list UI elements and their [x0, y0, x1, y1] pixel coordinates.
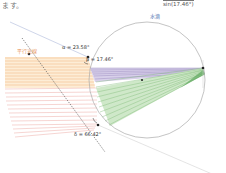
formula-denominator: sin(17.46°): [163, 0, 194, 7]
label-parallel-rays: 平行光線: [17, 47, 37, 54]
formula: sin(17.46°): [163, 0, 194, 7]
refraction-diagram: [0, 0, 226, 173]
point-exit[interactable]: [202, 67, 205, 70]
header-text: ます。: [2, 0, 24, 10]
incident-band: [5, 57, 95, 88]
outgoing-guide-line: [98, 125, 226, 173]
point-lower-exit[interactable]: [97, 124, 100, 127]
label-beta-angle: β = 17.46°: [86, 56, 113, 62]
delta-angle-arc: [93, 118, 97, 123]
label-delta-angle: δ = 66.42°: [74, 131, 101, 137]
exit-rays: [5, 88, 97, 137]
point-center[interactable]: [141, 79, 143, 81]
label-alpha-angle: α = 23.58°: [62, 44, 89, 50]
label-water-drop: 水滴: [150, 12, 160, 19]
